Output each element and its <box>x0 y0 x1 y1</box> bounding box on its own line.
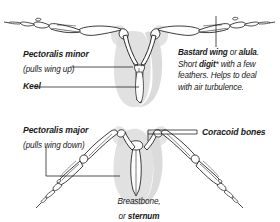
breastbone-line2: or sternum <box>119 212 160 221</box>
top-left-tip <box>4 22 10 23</box>
bottom-left-phalanx <box>41 197 47 203</box>
top-right-phalanx <box>258 22 270 24</box>
pectoralis-minor-title: Pectoralis minor <box>23 49 89 59</box>
label-pectoralis-minor: Pectoralis minor (pulls wing up) <box>23 46 89 75</box>
bastard-wing-line2: Short digit* with a few <box>178 59 278 71</box>
bottom-right-phalanx <box>232 197 238 203</box>
bastard-wing-line1: Bastard wing or alula. <box>178 47 278 59</box>
bastard-wing-line3: feathers. Helps to deal <box>178 70 278 82</box>
top-right-manus <box>245 22 258 26</box>
coracoid-right-head <box>154 130 162 137</box>
top-left-manus <box>21 22 34 26</box>
short-word: Short <box>178 60 199 69</box>
label-keel: Keel <box>23 81 41 91</box>
bastard-wing-conjunction: or <box>228 48 239 57</box>
bottom-left-tip <box>36 203 41 208</box>
label-pectoralis-major: Pectoralis major (pulls wing down) <box>23 122 88 151</box>
sternum-prefix: or <box>119 212 128 221</box>
bottom-left-carpals <box>53 183 62 191</box>
pectoralis-major-title: Pectoralis major <box>23 125 88 135</box>
bottom-right-humerus-line <box>167 134 190 156</box>
top-right-tip <box>269 22 275 23</box>
bottom-right-ulna <box>196 161 221 185</box>
label-breastbone: Breastbone, or sternum <box>106 193 172 222</box>
alula-term: alula <box>239 48 257 57</box>
top-left-alula <box>36 18 41 21</box>
bottom-left-humerus-line <box>89 134 112 156</box>
bastard-wing-period: . <box>257 48 259 57</box>
bottom-right-carpals <box>217 183 226 191</box>
bird-skeleton-figure: Pectoralis minor (pulls wing up) Keel Ba… <box>0 0 280 222</box>
digit-term: digit <box>199 60 216 69</box>
coracoid-left-head <box>117 130 125 137</box>
label-coracoid-bones: Coracoid bones <box>202 127 266 137</box>
breastbone-line1: Breastbone, <box>117 197 160 206</box>
top-right-alula-digit <box>233 17 238 20</box>
skeleton-artwork <box>0 0 280 222</box>
keel-blade <box>136 72 144 103</box>
bottom-left-ulna <box>58 161 83 185</box>
top-left-carpals <box>34 22 49 28</box>
pectoralis-major-subtitle: (pulls wing down) <box>23 141 85 150</box>
bastard-wing-term: Bastard wing <box>178 48 228 57</box>
sternum-term: sternum <box>128 212 160 221</box>
top-left-phalanx <box>9 22 21 24</box>
bastard-wing-line4: with air turbulence. <box>178 82 278 94</box>
pectoralis-minor-subtitle: (pulls wing up) <box>23 65 74 74</box>
top-right-carpals <box>230 22 245 28</box>
digit-suffix: * with a few <box>215 60 255 69</box>
bottom-right-tip <box>238 203 243 208</box>
label-bastard-wing-note: Bastard wing or alula. Short digit* with… <box>178 47 278 93</box>
bottom-right-humerus <box>161 130 196 160</box>
